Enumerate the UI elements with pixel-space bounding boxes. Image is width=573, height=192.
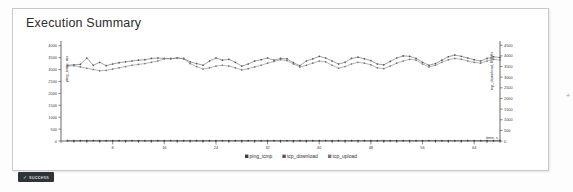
- data-point: [370, 60, 372, 62]
- data-point: [364, 62, 366, 64]
- y-ticklabel-right: 2000: [504, 96, 513, 101]
- data-point: [176, 57, 178, 59]
- data-point: [183, 140, 185, 142]
- y-ticklabel-left: 3500: [48, 55, 57, 60]
- data-point: [383, 68, 385, 70]
- data-point: [280, 59, 282, 61]
- data-point: [493, 140, 495, 142]
- y-ticklabel-left: 0: [55, 139, 58, 144]
- y-ticklabel-left: 3000: [48, 67, 57, 72]
- data-point: [67, 65, 69, 67]
- data-point: [448, 56, 450, 58]
- data-point: [370, 64, 372, 66]
- data-point: [402, 60, 404, 62]
- y-ticklabel-right: 4000: [504, 53, 513, 58]
- data-point: [293, 140, 295, 142]
- data-point: [222, 59, 224, 61]
- y-ticklabel-left: 2500: [48, 79, 57, 84]
- data-point: [254, 60, 256, 62]
- data-point: [415, 59, 417, 61]
- chart-canvas: 05001000150020002500300035004000ping_icm…: [13, 35, 548, 171]
- data-point: [441, 61, 443, 63]
- data-point: [338, 63, 340, 65]
- data-point: [389, 140, 391, 142]
- data-point: [170, 140, 172, 142]
- data-point: [151, 61, 153, 63]
- data-point: [234, 61, 236, 63]
- data-point: [209, 67, 211, 69]
- data-point: [273, 61, 275, 63]
- y-ticklabel-right: 3500: [504, 64, 513, 69]
- data-point: [67, 140, 69, 142]
- data-point: [73, 140, 75, 142]
- legend-swatch: [328, 155, 331, 158]
- data-point: [105, 140, 107, 142]
- data-point: [254, 66, 256, 68]
- data-point: [144, 63, 146, 65]
- data-point: [157, 140, 159, 142]
- data-point: [415, 58, 417, 60]
- x-ticklabel: 24: [214, 145, 219, 150]
- y-ticklabel-right: 3000: [504, 75, 513, 80]
- x-ticklabel: 56: [420, 145, 424, 150]
- data-point: [260, 140, 262, 142]
- y-ticklabel-left: 2000: [48, 91, 57, 96]
- data-point: [480, 140, 482, 142]
- data-point: [92, 69, 94, 71]
- data-point: [299, 66, 301, 68]
- data-point: [125, 61, 127, 63]
- legend-swatch: [245, 155, 248, 158]
- data-point: [234, 140, 236, 142]
- data-point: [460, 55, 462, 57]
- data-point: [428, 64, 430, 66]
- page-title: Execution Summary: [26, 16, 141, 30]
- data-point: [454, 140, 456, 142]
- data-point: [170, 58, 172, 60]
- data-point: [460, 140, 462, 142]
- data-point: [499, 57, 501, 59]
- data-point: [228, 140, 230, 142]
- chart-legend: ping_icmptcp_downloadtcp_upload: [245, 153, 357, 159]
- screenshot-root: Execution Summary 0500100015002000250030…: [0, 0, 573, 192]
- data-point: [467, 60, 469, 62]
- data-point: [247, 68, 249, 70]
- data-point: [376, 67, 378, 69]
- data-point: [357, 140, 359, 142]
- data-point: [280, 140, 282, 142]
- data-point: [202, 140, 204, 142]
- data-point: [312, 58, 314, 60]
- data-point: [422, 140, 424, 142]
- data-point: [402, 55, 404, 57]
- data-point: [318, 55, 320, 57]
- data-point: [80, 66, 82, 68]
- data-point: [383, 64, 385, 66]
- data-point: [293, 63, 295, 65]
- legend-label: tcp_download: [287, 153, 318, 159]
- data-point: [493, 58, 495, 60]
- data-point: [338, 67, 340, 69]
- data-point: [267, 57, 269, 59]
- data-point: [112, 63, 114, 65]
- data-point: [86, 57, 88, 59]
- data-point: [305, 140, 307, 142]
- x-axis-title: time, s: [486, 135, 498, 140]
- y-ticklabel-right: 2500: [504, 85, 513, 90]
- data-point: [241, 65, 243, 67]
- data-point: [118, 140, 120, 142]
- data-point: [344, 66, 346, 68]
- data-point: [364, 58, 366, 60]
- data-point: [312, 62, 314, 64]
- y-ticklabel-left: 1000: [48, 115, 57, 120]
- data-point: [454, 54, 456, 56]
- data-point: [364, 140, 366, 142]
- data-point: [196, 140, 198, 142]
- data-point: [138, 59, 140, 61]
- data-point: [228, 65, 230, 67]
- data-point: [105, 65, 107, 67]
- data-point: [351, 63, 353, 65]
- x-ticklabel: 48: [369, 145, 373, 150]
- x-ticklabel: 16: [162, 145, 166, 150]
- data-point: [441, 140, 443, 142]
- data-point: [92, 140, 94, 142]
- y-ticklabel-right: 500: [504, 128, 511, 133]
